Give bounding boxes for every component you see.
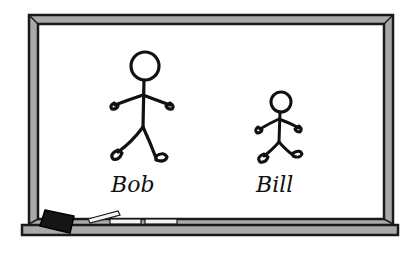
chalkboard-frame: [29, 15, 393, 227]
chalk-piece-flat-1: [110, 219, 141, 224]
chalk-piece-flat-2: [145, 219, 177, 224]
chalk-tray: [22, 225, 398, 235]
figure-label-bob: Bob: [111, 174, 155, 196]
figure-label-bill: Bill: [256, 174, 293, 196]
chalkboard-scene: Bob Bill: [0, 0, 413, 253]
